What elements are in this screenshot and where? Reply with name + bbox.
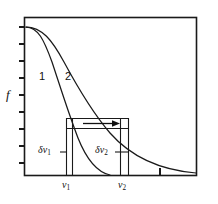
v2-symbol: v	[118, 179, 122, 190]
delta-v1-label: δv1	[38, 145, 51, 157]
delta-v1-strip	[67, 118, 73, 175]
delta-v2-subscript: 2	[104, 149, 108, 157]
delta-v2-label: δv2	[95, 145, 108, 157]
delta-v1-symbol: δv	[38, 144, 47, 155]
delta-v2-symbol: δv	[95, 144, 104, 155]
figure-canvas	[0, 0, 218, 204]
velocity-distribution-figure: f 1 2 δv1 δv2 v1 v2	[0, 0, 218, 204]
v1-subscript: 1	[67, 184, 71, 192]
delta-v1-subscript: 1	[47, 149, 51, 157]
v2-subscript: 2	[123, 184, 127, 192]
v1-axis-label: v1	[62, 180, 70, 192]
v2-axis-label: v2	[118, 180, 126, 192]
curve-2-label: 2	[65, 71, 71, 82]
arrow-head	[112, 120, 120, 127]
curve-1-label: 1	[39, 71, 45, 82]
y-axis-label: f	[6, 88, 10, 101]
shift-arrow-icon	[83, 120, 120, 127]
v1-symbol: v	[62, 179, 66, 190]
y-axis-ticks	[19, 27, 24, 163]
curve-2-path	[26, 27, 196, 173]
